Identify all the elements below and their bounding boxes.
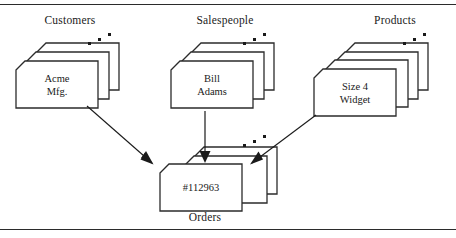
salespeople-card-line-1: Bill (173, 73, 251, 86)
customers-ellipsis-dots (88, 31, 128, 47)
products-card-line-2: Widget (316, 94, 394, 107)
salespeople-ellipsis-dots (243, 31, 283, 47)
group-label-orders: Orders (160, 211, 250, 224)
products-card-line-1: Size 4 (316, 81, 394, 94)
group-label-customers: Customers (10, 14, 130, 27)
salespeople-card-line-2: Adams (173, 86, 251, 99)
entity-relationship-figure: Customers Salespeople Products Orders Ac… (0, 0, 456, 238)
products-ellipsis-dots (403, 31, 443, 47)
group-label-salespeople: Salespeople (165, 14, 285, 27)
salespeople-card-text: Bill Adams (173, 73, 251, 98)
customers-card-line-1: Acme (18, 73, 96, 86)
diagram-vector-layer (0, 0, 456, 238)
products-card-text: Size 4 Widget (316, 81, 394, 106)
orders-card-text: #112963 (162, 182, 240, 195)
orders-ellipsis-dots (243, 133, 283, 149)
customers-card-text: Acme Mfg. (18, 73, 96, 98)
orders-card-line-1: #112963 (162, 182, 240, 195)
group-label-products: Products (340, 14, 450, 27)
arrow-customers-to-orders (87, 106, 154, 165)
customers-card-line-2: Mfg. (18, 86, 96, 99)
